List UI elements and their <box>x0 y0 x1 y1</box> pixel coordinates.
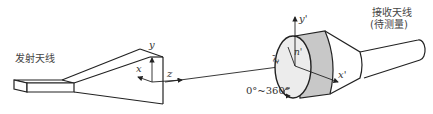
antenna-measurement-diagram <box>0 0 433 114</box>
transmit-horn <box>62 49 163 104</box>
receive-tube <box>360 40 425 78</box>
waveguide-feed <box>14 80 74 92</box>
axis-label-y: y <box>149 40 155 50</box>
rotation-range-label: 0°~360° <box>246 86 290 96</box>
axis-label-y-prime: y' <box>299 14 307 24</box>
receive-antenna-sublabel: (待测量) <box>370 20 408 30</box>
axis-label-x-prime: x' <box>338 70 346 80</box>
axis-label-x: x <box>136 64 142 74</box>
receive-antenna-label: 接收天线 <box>372 8 412 18</box>
polarization-label: n' <box>294 48 302 57</box>
transmit-axes <box>138 58 182 82</box>
axis-label-z: z <box>167 69 172 79</box>
propagation-line <box>165 66 286 82</box>
transmit-antenna-label: 发射天线 <box>15 54 55 64</box>
